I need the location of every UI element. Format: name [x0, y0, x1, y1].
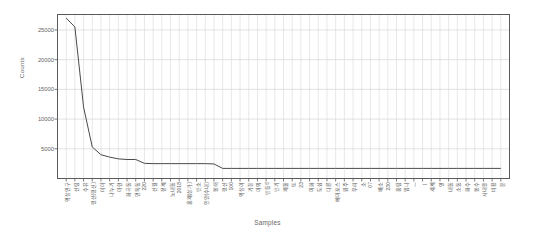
- plot-area: [0, 0, 535, 236]
- chart-container: Counts Samples 500010000150002000025000 …: [0, 0, 535, 236]
- gridlines: [58, 15, 510, 179]
